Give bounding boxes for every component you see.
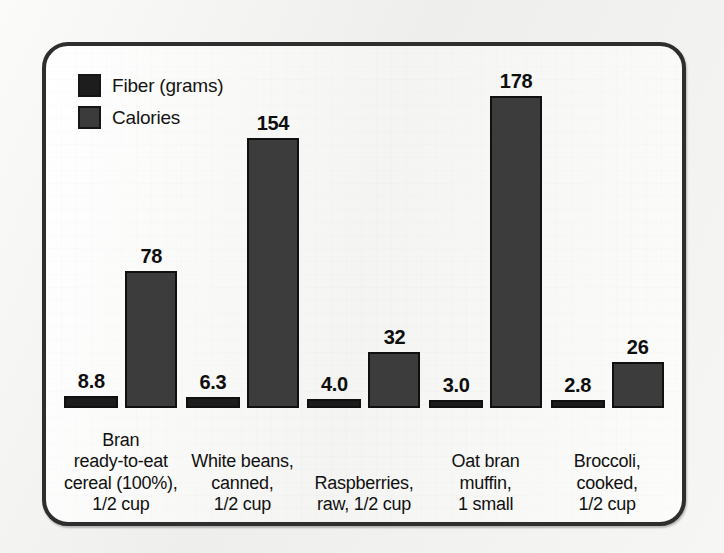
category-label: Bran ready-to-eat cereal (100%), 1/2 cup (56, 430, 186, 516)
legend-label-fiber: Fiber (grams) (112, 75, 223, 97)
bar-group-raspberries: 4.0 32 Raspberries, raw, 1/2 cup (303, 46, 425, 522)
chart-legend: Fiber (grams) Calories (78, 74, 223, 138)
legend-item-calories: Calories (78, 106, 223, 129)
bar-calories (490, 96, 542, 408)
bar-fiber (429, 400, 483, 408)
category-label: Broccoli, cooked, 1/2 cup (542, 451, 672, 516)
category-label: White beans, canned, 1/2 cup (178, 451, 308, 516)
bar-wrap-fiber: 4.0 (307, 373, 361, 408)
category-label: Raspberries, raw, 1/2 cup (299, 473, 429, 516)
legend-label-calories: Calories (112, 107, 180, 129)
bar-wrap-fiber: 8.8 (64, 370, 118, 408)
bar-value-fiber: 6.3 (199, 371, 226, 394)
legend-swatch-fiber-icon (78, 74, 101, 97)
bar-value-calories: 178 (500, 70, 532, 93)
category-label-line: ready-to-eat (56, 451, 186, 473)
bar-calories (125, 271, 177, 408)
bar-fiber (64, 396, 118, 408)
category-label: Oat bran muffin, 1 small (421, 451, 551, 516)
bar-calories (368, 352, 420, 408)
category-label-line: Broccoli, (542, 451, 672, 473)
category-label-line: Raspberries, (299, 473, 429, 495)
bar-wrap-fiber: 3.0 (429, 374, 483, 408)
bar-wrap-calories: 178 (490, 70, 542, 408)
category-label-line: 1/2 cup (178, 494, 308, 516)
bar-group-broccoli: 2.8 26 Broccoli, cooked, 1/2 cup (546, 46, 668, 522)
figure-frame: Fiber (grams) Calories 8.8 (42, 42, 686, 526)
category-label-line: canned, (178, 473, 308, 495)
category-label-line: 1/2 cup (56, 494, 186, 516)
category-label-line: cooked, (542, 473, 672, 495)
page-background: Fiber (grams) Calories 8.8 (0, 0, 724, 553)
legend-item-fiber: Fiber (grams) (78, 74, 223, 97)
bar-calories (612, 362, 664, 408)
category-label-line: cereal (100%), (56, 473, 186, 495)
legend-swatch-calories-icon (78, 106, 101, 129)
bar-group-oat-bran-muffin: 3.0 178 Oat bran muffin, 1 small (425, 46, 547, 522)
bar-wrap-calories: 154 (247, 112, 299, 408)
bar-value-calories: 26 (627, 336, 649, 359)
category-label-line: muffin, (421, 473, 551, 495)
bar-value-calories: 78 (140, 245, 162, 268)
bar-value-fiber: 3.0 (443, 374, 470, 397)
category-label-line: 1 small (421, 494, 551, 516)
bar-wrap-fiber: 6.3 (186, 371, 240, 408)
bar-calories (247, 138, 299, 408)
bar-value-fiber: 2.8 (564, 374, 591, 397)
category-label-line: White beans, (178, 451, 308, 473)
category-label-line: Oat bran (421, 451, 551, 473)
bar-value-calories: 154 (257, 112, 289, 135)
bar-value-fiber: 8.8 (78, 370, 105, 393)
bar-wrap-fiber: 2.8 (551, 374, 605, 408)
bar-chart: Fiber (grams) Calories 8.8 (46, 46, 682, 522)
category-label-line: 1/2 cup (542, 494, 672, 516)
bar-pair: 2.8 26 (546, 78, 668, 408)
bar-wrap-calories: 32 (368, 326, 420, 408)
bar-wrap-calories: 26 (612, 336, 664, 408)
bar-value-calories: 32 (384, 326, 406, 349)
category-label-line: raw, 1/2 cup (299, 494, 429, 516)
bar-pair: 3.0 178 (425, 78, 547, 408)
bar-fiber (551, 400, 605, 408)
bar-fiber (307, 399, 361, 408)
bar-wrap-calories: 78 (125, 245, 177, 408)
bar-pair: 4.0 32 (303, 78, 425, 408)
bar-value-fiber: 4.0 (321, 373, 348, 396)
category-label-line: Bran (56, 430, 186, 452)
bar-fiber (186, 397, 240, 408)
